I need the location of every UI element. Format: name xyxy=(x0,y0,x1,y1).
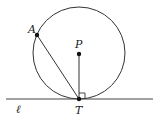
point-T xyxy=(77,97,81,101)
label-line-l: ℓ xyxy=(16,103,21,116)
label-T: T xyxy=(75,104,84,117)
geometry-diagram: A P T ℓ xyxy=(0,0,163,119)
label-P: P xyxy=(74,38,83,51)
label-A: A xyxy=(27,23,36,36)
point-P xyxy=(77,52,81,56)
diagram-canvas: A P T ℓ xyxy=(0,0,163,119)
chord-AT xyxy=(37,35,79,99)
